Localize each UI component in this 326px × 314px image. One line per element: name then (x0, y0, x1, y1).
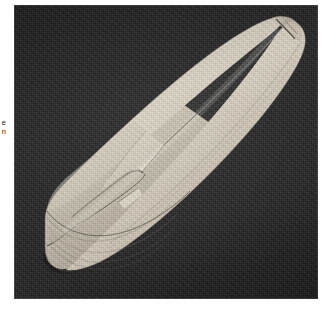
margin-note-text: e n (0, 119, 6, 137)
figure-photograph (14, 5, 318, 299)
page-margin-right (318, 0, 326, 314)
scanned-page: e n (0, 0, 326, 314)
hull-model-scene (14, 5, 318, 299)
hull-model-illustration (14, 5, 318, 299)
page-margin-bottom (0, 299, 326, 314)
page-margin-top (0, 0, 326, 5)
margin-note-line-2: n (0, 128, 6, 137)
